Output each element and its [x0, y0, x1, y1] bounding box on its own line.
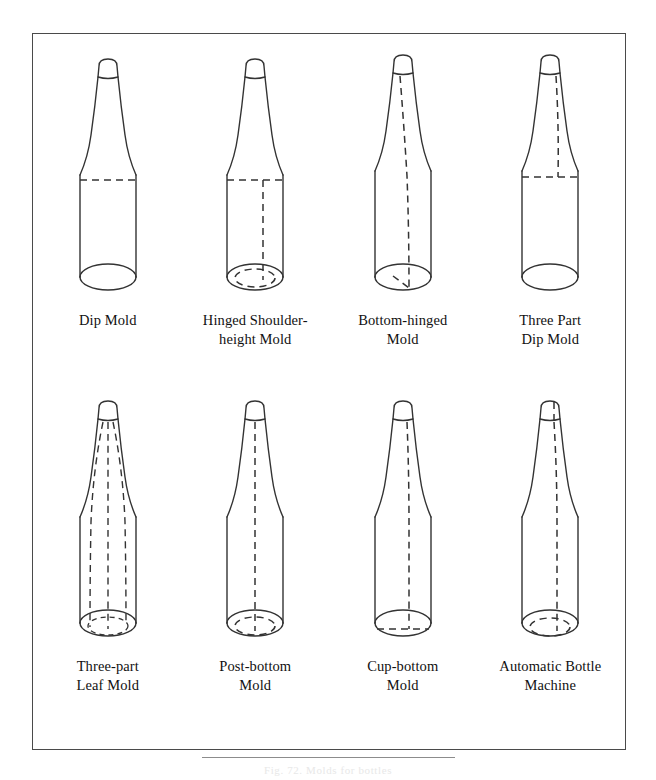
mold-diagram-dip-mold: Dip Mold: [34, 40, 182, 386]
mold-label-line1: Post-bottom: [219, 658, 291, 674]
mold-diagram-post-bottom-mold: Post-bottom Mold: [182, 386, 330, 732]
bottle-drawing: [185, 40, 325, 308]
mold-label: Post-bottom Mold: [184, 657, 326, 696]
mold-label-line1: Three Part: [519, 312, 581, 328]
mold-label-line2: Leaf Mold: [37, 676, 179, 695]
mold-diagram-hinged-shoulder-height-mold: Hinged Shoulder- height Mold: [182, 40, 330, 386]
figure-page: Dip Mold: [0, 0, 656, 780]
bottle-drawing: [480, 386, 620, 654]
mold-diagram-automatic-bottle-machine: Automatic Bottle Machine: [477, 386, 625, 732]
bottle-drawing: [38, 40, 178, 308]
mold-label: Dip Mold: [37, 311, 179, 330]
bottle-drawing: [333, 40, 473, 308]
mold-label: Bottom-hinged Mold: [332, 311, 474, 350]
mold-label-line2: Mold: [184, 676, 326, 695]
mold-label-line1: Cup-bottom: [367, 658, 438, 674]
mold-label-line1: Three-part: [77, 658, 139, 674]
mold-label: Three-part Leaf Mold: [37, 657, 179, 696]
mold-diagram-three-part-dip-mold: Three Part Dip Mold: [477, 40, 625, 386]
bottle-drawing: [480, 40, 620, 308]
bottle-drawing: [38, 386, 178, 654]
mold-label-line1: Hinged Shoulder-: [203, 312, 308, 328]
caption-rule: [202, 757, 455, 758]
mold-label-line2: Dip Mold: [479, 330, 621, 349]
bottle-drawing: [185, 386, 325, 654]
mold-label: Cup-bottom Mold: [332, 657, 474, 696]
mold-grid: Dip Mold: [34, 40, 624, 732]
mold-diagram-bottom-hinged-mold: Bottom-hinged Mold: [329, 40, 477, 386]
mold-label-line2: Machine: [479, 676, 621, 695]
mold-label-line2: Mold: [332, 676, 474, 695]
mold-label-line1: Bottom-hinged: [358, 312, 447, 328]
mold-label: Automatic Bottle Machine: [479, 657, 621, 696]
mold-label-line1: Automatic Bottle: [499, 658, 601, 674]
mold-label-line2: Mold: [332, 330, 474, 349]
mold-label: Hinged Shoulder- height Mold: [184, 311, 326, 350]
figure-caption: Fig. 72. Molds for bottles: [0, 764, 656, 776]
bottle-drawing: [333, 386, 473, 654]
mold-diagram-cup-bottom-mold: Cup-bottom Mold: [329, 386, 477, 732]
mold-label: Three Part Dip Mold: [479, 311, 621, 350]
mold-diagram-three-part-leaf-mold: Three-part Leaf Mold: [34, 386, 182, 732]
mold-label-line2: height Mold: [184, 330, 326, 349]
mold-label-line1: Dip Mold: [79, 312, 137, 328]
